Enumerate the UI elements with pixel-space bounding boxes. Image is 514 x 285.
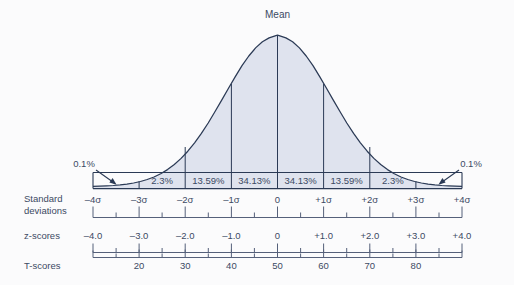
right-tail-annotation: 0.1% [438, 158, 482, 185]
mean-label: Mean [265, 9, 290, 20]
sd-tick-label-1: +1σ [315, 194, 332, 205]
z-tick-label--4: –4.0 [84, 230, 103, 241]
z-tick-label-0: 0 [275, 230, 280, 241]
sd-tick-label-2: +2σ [361, 194, 378, 205]
t-scores-row-label: T-scores [24, 260, 61, 271]
sd-tick-label-0: 0 [275, 194, 280, 205]
t-tick-label-80: 80 [411, 260, 422, 271]
t-tick-label-60: 60 [318, 260, 329, 271]
t-tick-label-70: 70 [365, 260, 376, 271]
right-tail-arrowhead-icon [438, 178, 445, 185]
z-tick-label-2: +2.0 [360, 230, 379, 241]
right-tail-percent-label: 0.1% [460, 158, 482, 169]
t-tick-label-20: 20 [134, 260, 145, 271]
sd-tick-label-3: +3σ [408, 194, 425, 205]
t-tick-label-40: 40 [226, 260, 237, 271]
percent-label-neg1-0: 34.13% [238, 175, 271, 186]
percent-label-0-1: 34.13% [284, 175, 317, 186]
t-tick-label-50: 50 [272, 260, 283, 271]
standard-deviations-row: Standard deviations –4σ –3σ –2σ –1σ 0 +1… [24, 193, 470, 218]
z-tick-label-1: +1.0 [314, 230, 333, 241]
sd-axis [93, 207, 462, 218]
z-scores-row-label: z-scores [24, 230, 60, 241]
z-tick-label-4: +4.0 [453, 230, 472, 241]
left-tail-arrowhead-icon [109, 178, 116, 185]
z-tick-label--3: –3.0 [130, 230, 149, 241]
percent-label-2-3: 2.3% [382, 175, 404, 186]
sd-tick-label--3: –3σ [131, 194, 148, 205]
percent-label-1-2: 13.59% [331, 175, 364, 186]
z-scores-row: z-scores –4.0 –3.0 –2.0 –1.0 0 +1.0 +2.0… [24, 230, 471, 253]
sd-tick-label--1: –1σ [223, 194, 240, 205]
t-axis [93, 250, 462, 258]
percent-label-neg3-neg2: 2.3% [151, 175, 173, 186]
t-tick-label-30: 30 [180, 260, 191, 271]
sd-tick-label--2: –2σ [177, 194, 194, 205]
sd-tick-label-4: +4σ [454, 194, 471, 205]
z-tick-label--1: –1.0 [222, 230, 241, 241]
bell-curve-group [93, 35, 462, 188]
mean-annotation: Mean [265, 9, 290, 20]
distribution-chart-svg: Mean 2.3% 13.59% 34.13% 34.13% 13.59% 2.… [0, 0, 514, 285]
sd-tick-label--4: –4σ [85, 194, 102, 205]
standard-deviations-row-label-line1: Standard [24, 193, 63, 204]
percent-label-neg2-neg1: 13.59% [192, 175, 225, 186]
standard-deviations-row-label-line2: deviations [24, 205, 67, 216]
z-tick-label--2: –2.0 [176, 230, 195, 241]
left-tail-annotation: 0.1% [73, 158, 116, 185]
normal-distribution-figure: Mean 2.3% 13.59% 34.13% 34.13% 13.59% 2.… [0, 0, 514, 285]
z-tick-label-3: +3.0 [407, 230, 426, 241]
left-tail-percent-label: 0.1% [73, 158, 95, 169]
